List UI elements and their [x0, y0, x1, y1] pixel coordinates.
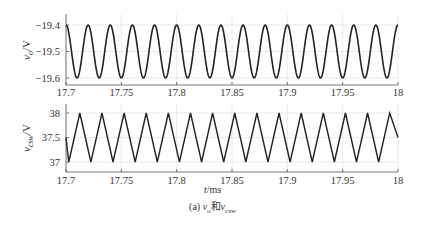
bottom-y-axis-label: vcsw/V	[20, 124, 35, 152]
y-tick: −19.4	[36, 20, 61, 31]
x-tick-label: 17.7	[57, 87, 75, 98]
bottom-grid	[66, 104, 398, 172]
x-tick-label: 17.95	[331, 87, 355, 98]
y-tick: 38	[50, 108, 61, 119]
x-tick-label: 17.85	[220, 87, 244, 98]
x-tick-label: 18	[393, 87, 404, 98]
x-axis-label: t/ms	[0, 184, 425, 195]
bottom-y-ticks: 38 37.5 37	[42, 108, 60, 168]
figure-caption: (a) vo和vcsw	[0, 198, 425, 215]
y-tick: 37.5	[42, 132, 60, 143]
y-tick: 37	[50, 157, 61, 168]
x-tick-label: 17.9	[278, 87, 296, 98]
top-x-ticks: 17.717.7517.817.8517.917.9518	[57, 82, 403, 98]
x-tick-label: 17.8	[167, 87, 185, 98]
top-y-ticks: −19.4 −19.5 −19.6	[36, 20, 61, 84]
y-tick: −19.5	[36, 46, 60, 57]
x-tick-label: 17.75	[110, 87, 134, 98]
top-plot-vo: −19.4 −19.5 −19.6 17.717.7517.817.8517.9…	[20, 14, 403, 98]
top-y-axis-label: vo/V	[20, 40, 35, 60]
bottom-plot-vcsw: 38 37.5 37 17.717.7517.817.8517.917.9518…	[20, 104, 403, 186]
y-tick: −19.6	[36, 73, 60, 84]
